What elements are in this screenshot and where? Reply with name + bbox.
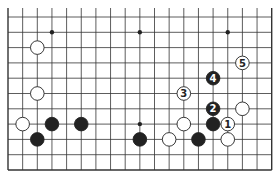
black-stone-2: 2	[206, 102, 220, 116]
white-stone	[31, 41, 45, 55]
black-stone	[74, 117, 88, 131]
white-stone	[177, 117, 191, 131]
white-stone-disc	[31, 41, 45, 55]
white-stone	[31, 87, 45, 101]
white-stone	[236, 102, 250, 116]
move-number: 3	[180, 88, 187, 99]
black-stone-disc	[206, 117, 220, 131]
black-stone	[206, 117, 220, 131]
move-number: 4	[210, 73, 217, 84]
black-stone	[45, 117, 59, 131]
white-stone	[16, 117, 30, 131]
black-stone-disc	[192, 133, 206, 147]
white-stone	[162, 133, 176, 147]
white-stone-disc	[236, 102, 250, 116]
white-stone-5: 5	[236, 56, 250, 70]
white-stone-disc	[221, 133, 235, 147]
black-stone-disc	[133, 133, 147, 147]
black-stone-disc	[31, 133, 45, 147]
go-board-diagram: 34521	[0, 0, 280, 180]
black-stone-disc	[74, 117, 88, 131]
star-point	[226, 30, 230, 34]
white-stone	[221, 133, 235, 147]
move-number: 5	[239, 58, 246, 69]
white-stone-disc	[16, 117, 30, 131]
star-point	[138, 122, 142, 126]
star-point	[50, 30, 54, 34]
white-stone-3: 3	[177, 87, 191, 101]
move-number: 2	[210, 103, 217, 114]
black-stone	[31, 133, 45, 147]
white-stone-disc	[177, 117, 191, 131]
black-stone-4: 4	[206, 71, 220, 85]
star-point	[138, 30, 142, 34]
white-stone-1: 1	[221, 117, 235, 131]
black-stone	[192, 133, 206, 147]
white-stone-disc	[31, 87, 45, 101]
move-number: 1	[224, 119, 231, 130]
white-stone-disc	[162, 133, 176, 147]
black-stone	[133, 133, 147, 147]
black-stone-disc	[45, 117, 59, 131]
